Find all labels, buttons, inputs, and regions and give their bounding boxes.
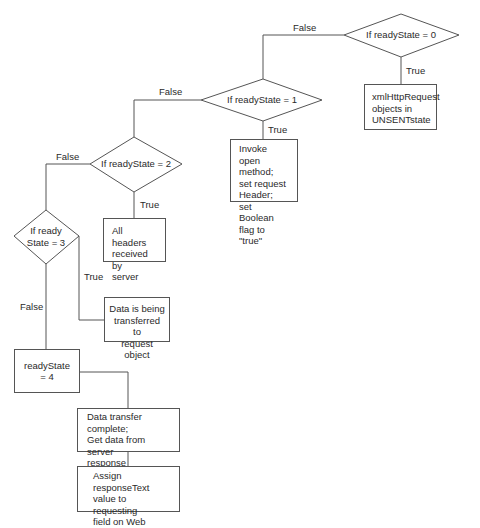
decision-0-label: If readyState = 0 xyxy=(366,29,436,41)
process-box-ready-state-4: readyState = 4 xyxy=(14,349,80,393)
edge-label-d1-true: True xyxy=(268,124,287,136)
decision-3-label-line2: State = 3 xyxy=(27,237,65,249)
process-box-headers-received: All headers received by server xyxy=(103,218,166,262)
decision-1-label: If readyState = 1 xyxy=(227,94,297,106)
decision-2-label: If readyState = 2 xyxy=(101,158,171,170)
edge-label-d0-true: True xyxy=(406,65,425,77)
edge-label-d2-true: True xyxy=(140,199,159,211)
process-box-assign-response: Assign responseText value to requesting … xyxy=(77,466,180,512)
decision-3-label: If ready State = 3 xyxy=(27,225,65,249)
process-box-data-transferring: Data is being transferred to request obj… xyxy=(104,297,170,342)
edge-label-d2-false: False xyxy=(56,151,79,163)
edge-label-d3-true: True xyxy=(84,271,103,283)
flowchart-connectors xyxy=(0,0,480,528)
decision-3-label-line1: If ready xyxy=(27,225,65,237)
edge-label-d0-false: False xyxy=(293,22,316,34)
process-box-open-method: Invoke open method; set request Header; … xyxy=(230,139,298,202)
edge-label-d1-false: False xyxy=(159,86,182,98)
process-box-unsent-state: xmlHttpRequest objects in UNSENTstate xyxy=(364,84,437,130)
process-box-transfer-complete: Data transfer complete; Get data from se… xyxy=(77,408,180,452)
edge-label-d3-false: False xyxy=(20,301,43,313)
